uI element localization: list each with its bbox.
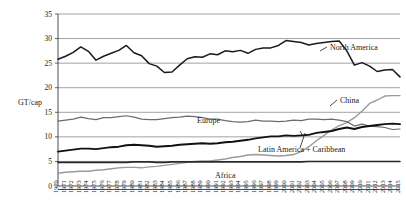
y-axis-label: GT/cap (18, 98, 42, 107)
x-tick-label: 1996 (250, 180, 257, 193)
series-label-north-america: North America (330, 43, 378, 52)
x-tick-label: 2010 (356, 180, 363, 193)
x-tick-label: 1973 (75, 180, 82, 193)
x-tick-label: 1988 (189, 180, 196, 193)
x-tick-label: 2006 (326, 180, 333, 193)
y-tick-label: 5 (48, 157, 52, 166)
x-tick-label: 1993 (227, 180, 234, 193)
x-tick-labels-group: 1970197119721973197419751976197719781979… (52, 179, 401, 193)
x-tick-label: 2011 (364, 180, 371, 193)
emissions-line-chart: 05101520253035 1970197119721973197419751… (0, 0, 406, 221)
x-tick-label: 2009 (348, 180, 355, 193)
x-tick-label: 2014 (386, 179, 393, 193)
x-tick-label: 1976 (98, 180, 105, 193)
x-tick-label: 1972 (67, 180, 74, 193)
y-tick-label: 15 (45, 108, 53, 117)
series-label-africa: Africa (215, 171, 236, 180)
x-tick-label: 2008 (341, 180, 348, 193)
chart-figure: 05101520253035 1970197119721973197419751… (0, 0, 406, 221)
x-tick-label: 1997 (257, 179, 264, 193)
x-tick-label: 1989 (196, 180, 203, 193)
series-label-europe: Europe (197, 116, 221, 125)
x-tick-label: 1981 (136, 180, 143, 193)
x-tick-label: 1992 (219, 180, 226, 193)
x-tick-label: 2002 (295, 180, 302, 193)
y-tick-label: 25 (45, 59, 53, 68)
y-tick-label: 30 (45, 34, 53, 43)
x-tick-label: 1990 (204, 180, 211, 193)
x-tick-label: 2004 (310, 179, 317, 193)
x-tick-label: 1971 (60, 180, 67, 193)
x-tick-label: 1985 (166, 180, 173, 193)
x-tick-label: 1986 (174, 180, 181, 193)
x-tick-label: 1999 (272, 180, 279, 193)
x-tick-label: 2001 (288, 180, 295, 193)
x-tick-label: 2005 (318, 180, 325, 193)
x-tick-label: 1980 (128, 180, 135, 193)
y-tick-label: 10 (45, 132, 53, 141)
series-line-latin-america-caribbean (58, 124, 400, 152)
x-tick-label: 1983 (151, 180, 158, 193)
x-tick-label: 1982 (143, 180, 150, 193)
gridlines-group (58, 14, 400, 161)
series-label-latin-america-caribbean: Latin America + Caribbean (258, 145, 345, 154)
x-tick-label: 2000 (280, 180, 287, 193)
series-lines-group (58, 41, 400, 174)
x-tick-label: 1991 (212, 180, 219, 193)
x-tick-label: 1979 (120, 180, 127, 193)
x-tick-label: 1978 (113, 180, 120, 193)
y-tick-label: 35 (45, 10, 53, 19)
x-tick-label: 2007 (333, 179, 340, 193)
x-tick-label: 1974 (82, 179, 89, 193)
x-tick-label: 2015 (394, 180, 401, 193)
x-tick-label: 2013 (379, 180, 386, 193)
x-tick-label: 1975 (90, 180, 97, 193)
x-tick-label: 1977 (105, 179, 112, 193)
x-tick-label: 2003 (303, 180, 310, 193)
x-tick-label: 1994 (234, 179, 241, 193)
series-label-china: China (340, 96, 360, 105)
china-leader (330, 100, 337, 106)
x-tick-label: 1995 (242, 180, 249, 193)
x-tick-label: 2012 (371, 180, 378, 193)
x-tick-label: 1970 (52, 180, 59, 193)
y-tick-labels-group: 05101520253035 (45, 10, 53, 191)
x-tick-label: 1998 (265, 180, 272, 193)
x-tick-label: 1987 (181, 179, 188, 193)
x-tick-label: 1984 (158, 179, 165, 193)
y-tick-label: 20 (45, 83, 53, 92)
north-america-leader (320, 47, 327, 51)
